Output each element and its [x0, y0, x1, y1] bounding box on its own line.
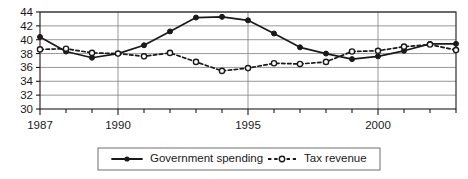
data-point — [246, 18, 251, 23]
legend-label: Tax revenue — [304, 152, 367, 164]
data-point — [272, 31, 277, 36]
data-point — [401, 44, 406, 49]
y-tick-label: 42 — [20, 20, 33, 32]
chart-container: 30323436384042441987199019952000Governme… — [0, 0, 468, 179]
x-tick-label: 1990 — [105, 119, 131, 131]
data-point — [115, 51, 120, 56]
data-point — [89, 50, 94, 55]
data-point — [220, 14, 225, 19]
y-tick-label: 32 — [20, 89, 33, 101]
data-point — [323, 59, 328, 64]
data-point — [167, 50, 172, 55]
data-point — [297, 61, 302, 66]
y-tick-label: 34 — [20, 75, 33, 87]
data-point — [454, 41, 459, 46]
data-point — [245, 66, 250, 71]
legend-label: Government spending — [150, 152, 263, 164]
x-tick-label: 1995 — [235, 119, 261, 131]
data-point — [375, 48, 380, 53]
data-point — [141, 54, 146, 59]
data-point — [38, 34, 43, 39]
y-tick-label: 44 — [20, 6, 33, 18]
data-point — [298, 45, 303, 50]
legend-marker-filled-circle-icon — [124, 156, 129, 161]
y-tick-label: 38 — [20, 48, 33, 60]
data-point — [453, 48, 458, 53]
data-point — [194, 15, 199, 20]
line-chart: 30323436384042441987199019952000Governme… — [0, 0, 468, 179]
y-tick-label: 36 — [20, 61, 33, 73]
x-tick-label: 2000 — [365, 119, 391, 131]
x-axis: 1987199019952000 — [27, 109, 456, 131]
data-point — [349, 49, 354, 54]
data-point — [324, 51, 329, 56]
data-point — [63, 46, 68, 51]
legend-marker-open-circle-icon — [279, 156, 284, 161]
y-tick-label: 30 — [20, 103, 33, 115]
data-point — [142, 43, 147, 48]
data-point — [219, 68, 224, 73]
data-point — [271, 61, 276, 66]
y-axis: 3032343638404244 — [20, 6, 40, 115]
data-point — [37, 47, 42, 52]
legend: Government spendingTax revenue — [98, 148, 380, 170]
x-tick-label: 1987 — [27, 119, 53, 131]
y-tick-label: 40 — [20, 34, 33, 46]
data-point — [427, 42, 432, 47]
data-point — [168, 29, 173, 34]
data-point — [376, 54, 381, 59]
data-point — [350, 57, 355, 62]
data-point — [193, 59, 198, 64]
